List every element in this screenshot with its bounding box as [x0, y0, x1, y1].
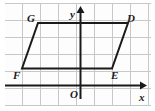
y-axis-arrow-icon — [77, 6, 85, 13]
y-axis-label: y — [70, 9, 75, 20]
origin-label: O — [70, 89, 78, 100]
vertex-label-g: G — [27, 13, 35, 24]
parallelogram-shape — [22, 23, 128, 69]
vertex-label-f: F — [13, 70, 20, 81]
x-axis-arrow-icon — [140, 82, 147, 90]
vertex-label-d: D — [127, 13, 135, 24]
x-axis-label: x — [139, 92, 145, 103]
vertex-label-e: E — [111, 70, 118, 81]
coordinate-plane-figure: G D F E y x O — [0, 0, 155, 111]
